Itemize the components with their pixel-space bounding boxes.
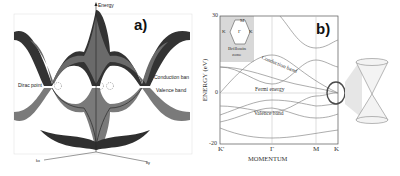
fermi-energy-annotation: Fermi energy — [255, 86, 284, 92]
panel-b-band-diagram: M K K Γ Brillouin zone b) 30 0 -20 ENERG… — [200, 0, 400, 176]
conduction-band-label: Conduction ban — [154, 74, 189, 80]
inset-point-k-right: K — [249, 29, 253, 34]
band-plot-graphic — [200, 0, 400, 176]
inset-caption-2: zone — [232, 52, 241, 57]
x-tick-k: K — [334, 145, 339, 153]
kx-axis-label: kx — [36, 158, 40, 163]
inset-point-k-left: K — [222, 29, 226, 34]
x-axis-label: MOMENTUM — [248, 155, 287, 162]
inset-caption-1: Brillouin — [228, 46, 246, 51]
y-tick-0: 0 — [215, 89, 218, 95]
x-tick-m: M — [313, 145, 319, 153]
y-tick-minus20: -20 — [209, 140, 217, 146]
energy-axis-label: Energy — [98, 2, 114, 8]
valence-band-annotation: Valence band — [254, 110, 283, 116]
x-tick-k-prime: K' — [218, 145, 224, 153]
panel-a-3d-band-structure: Energy a) Dirac point Conduction ban Val… — [0, 0, 200, 176]
ky-axis-label: ky — [146, 160, 150, 165]
inset-point-gamma: Γ — [238, 29, 241, 34]
panel-a-label: a) — [134, 16, 147, 33]
inset-point-m: M — [240, 18, 244, 23]
y-tick-30: 30 — [212, 12, 218, 18]
dirac-point-label: Dirac point — [18, 82, 42, 88]
valence-band-label: Valence band — [156, 87, 186, 93]
y-axis-label: ENERGY (eV) — [201, 55, 209, 105]
x-tick-gamma: Γ — [270, 145, 274, 153]
panel-b-label: b) — [316, 20, 330, 37]
